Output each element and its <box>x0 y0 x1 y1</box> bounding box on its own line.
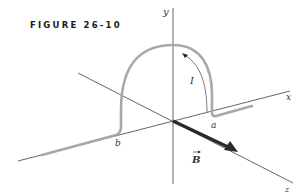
b-field-vector <box>173 121 228 147</box>
z-axis-label: z <box>284 185 290 193</box>
current-label: I <box>189 75 195 86</box>
b-field-label: B <box>191 154 200 165</box>
y-axis-label: y <box>162 6 169 17</box>
current-direction-arrow <box>184 55 207 112</box>
point-a-label: a <box>211 120 216 130</box>
x-axis-label: x <box>286 92 291 102</box>
point-b-label: b <box>115 138 121 148</box>
current-arrowhead-icon <box>182 53 188 58</box>
current-wire <box>42 45 252 155</box>
diagram-canvas: y x z I a b B <box>0 0 307 193</box>
